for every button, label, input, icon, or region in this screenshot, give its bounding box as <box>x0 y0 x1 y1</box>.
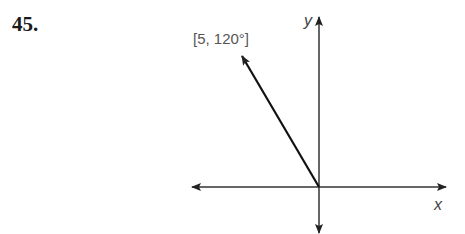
vector-arrow <box>242 56 319 187</box>
coordinate-diagram <box>0 0 465 234</box>
